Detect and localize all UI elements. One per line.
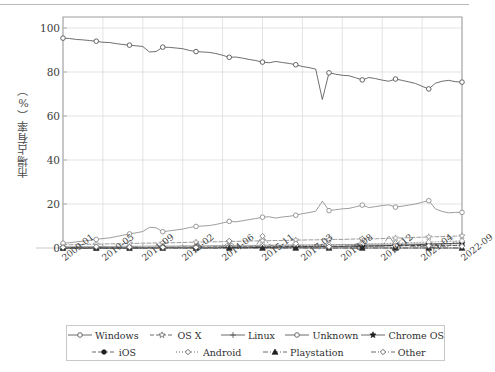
legend-marker-icon [91, 346, 117, 358]
legend-item-label: OS X [177, 330, 203, 341]
legend-item-label: Linux [248, 330, 277, 341]
legend-item-unknown[interactable]: Unknown [284, 329, 360, 341]
legend-item-label: iOS [119, 347, 138, 358]
legend-marker-icon [360, 329, 386, 341]
legend-item-label: Android [203, 347, 243, 358]
legend-item-label: Unknown [312, 330, 360, 341]
x-axis-tick-label: 2017-03 [299, 232, 335, 263]
x-axis-tick-label: 2022-09 [459, 232, 495, 263]
legend-item-label: Other [398, 347, 428, 358]
legend-item-windows[interactable]: Windows [67, 329, 141, 341]
legend-item-other[interactable]: Other [351, 346, 446, 358]
legend-marker-icon [370, 346, 396, 358]
legend-marker-icon [284, 329, 310, 341]
legend-item-linux[interactable]: Linux [212, 329, 284, 341]
legend-item-os-x[interactable]: OS X [141, 329, 213, 341]
legend-item-label: Playstation [290, 347, 346, 358]
legend-item-ios[interactable]: iOS [67, 346, 162, 358]
legend-item-label: Chrome OS [388, 330, 446, 341]
legend-marker-icon [220, 329, 246, 341]
legend-item-android[interactable]: Android [162, 346, 257, 358]
x-axis-tick-label: 2009-01 [60, 232, 96, 263]
x-axis-tick-label: 2013-02 [180, 232, 216, 263]
legend-item-playstation[interactable]: Playstation [257, 346, 352, 358]
chart-legend: WindowsOS XLinuxUnknownChrome OS iOSAndr… [66, 325, 445, 361]
x-axis-tick-label: 2011-09 [140, 232, 176, 263]
x-axis-tick-label: 2018-08 [339, 232, 375, 263]
legend-item-chrome-os[interactable]: Chrome OS [360, 329, 446, 341]
x-axis-tick-label: 2014-06 [220, 232, 256, 263]
legend-marker-icon [149, 329, 175, 341]
legend-marker-icon [175, 346, 201, 358]
legend-row: iOSAndroidPlaystationOther [67, 343, 446, 361]
x-axis-tick-label: 2015-11 [260, 232, 296, 263]
legend-row: WindowsOS XLinuxUnknownChrome OS [67, 326, 446, 344]
legend-item-label: Windows [95, 330, 141, 341]
legend-marker-icon [262, 346, 288, 358]
x-axis-tick-label: 2021-04 [419, 232, 455, 263]
legend-marker-icon [67, 329, 93, 341]
x-axis-tick-label: 2019-12 [379, 232, 415, 263]
x-axis-tick-label: 2010-05 [100, 232, 136, 263]
